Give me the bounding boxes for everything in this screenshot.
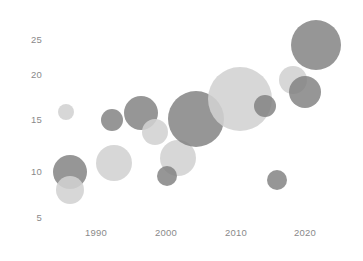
- bubble-light-1997-14[interactable]: [142, 119, 168, 145]
- plot-area: [0, 0, 363, 261]
- bubble-dark-2001-10[interactable]: [157, 166, 177, 186]
- bubble-dark-1992-16[interactable]: [101, 109, 123, 131]
- x-tick-label-2010: 2010: [225, 228, 247, 238]
- y-tick-label-20: 20: [31, 70, 42, 80]
- y-tick-label-10: 10: [31, 167, 42, 177]
- bubble-chart: 252015105 1990200020102020: [0, 0, 363, 261]
- bubble-light-1990-11[interactable]: [96, 145, 132, 181]
- bubble-dark-2013-18[interactable]: [254, 95, 276, 117]
- x-tick-label-2020: 2020: [294, 228, 316, 238]
- x-tick-label-2000: 2000: [155, 228, 177, 238]
- bubble-light-1986-7[interactable]: [56, 176, 84, 204]
- y-tick-label-15: 15: [31, 115, 42, 125]
- bubble-dark-2016-9[interactable]: [267, 170, 287, 190]
- y-tick-label-25: 25: [31, 35, 42, 45]
- bubble-dark-2020-19[interactable]: [289, 76, 321, 108]
- bubble-light-1985-17[interactable]: [58, 104, 74, 120]
- y-tick-label-5: 5: [37, 213, 42, 223]
- x-tick-label-1990: 1990: [85, 228, 107, 238]
- bubble-dark-2022-25[interactable]: [291, 20, 341, 70]
